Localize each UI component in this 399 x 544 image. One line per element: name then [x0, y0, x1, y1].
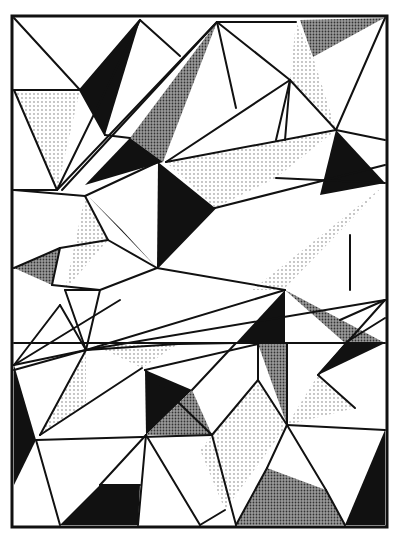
- edge-line: [192, 343, 236, 390]
- edge-line: [100, 435, 146, 485]
- edge-line: [40, 368, 142, 435]
- edge-line: [146, 435, 200, 525]
- edge-line: [14, 350, 86, 370]
- shape-light-12: [252, 185, 385, 290]
- edge-line: [100, 268, 157, 290]
- edge-line: [138, 435, 146, 525]
- edge-line: [140, 20, 180, 56]
- shape-dark-1: [130, 22, 217, 162]
- edge-line: [108, 240, 157, 268]
- shape-black-25: [14, 365, 36, 485]
- edge-line: [287, 425, 385, 430]
- edge-line: [318, 300, 385, 375]
- shape-fills: [14, 18, 385, 525]
- geometric-artwork: [0, 0, 399, 544]
- edge-line: [200, 510, 225, 525]
- shape-black-15: [318, 343, 385, 375]
- shape-black-8: [320, 130, 385, 195]
- shape-black-26: [60, 485, 140, 525]
- shape-black-24: [345, 430, 385, 525]
- edge-line: [36, 435, 212, 440]
- edge-line: [14, 18, 80, 90]
- edge-line: [157, 268, 285, 290]
- edge-line: [36, 440, 60, 525]
